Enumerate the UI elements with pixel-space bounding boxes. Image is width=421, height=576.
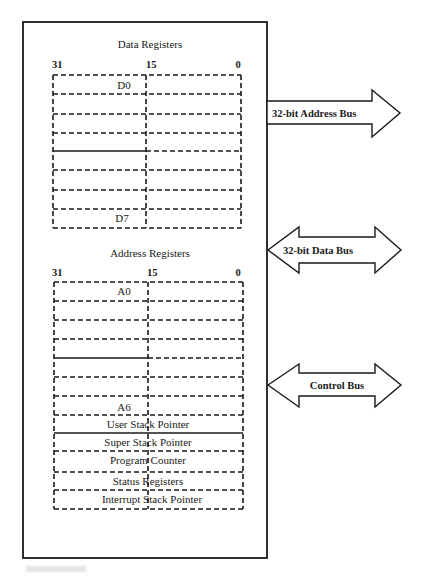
control-bus-label: Control Bus (310, 380, 364, 391)
cpu-register-diagram: Data Registers 31 15 0 D0 D7 Address Reg… (0, 0, 421, 576)
address-bit-15: 15 (147, 267, 158, 278)
status-registers-label: Status Registers (113, 475, 184, 487)
super-stack-pointer-label: Super Stack Pointer (104, 436, 192, 448)
data-registers-title: Data Registers (118, 38, 182, 50)
user-stack-pointer-label: User Stack Pointer (107, 418, 190, 430)
address-bit-0: 0 (235, 267, 240, 278)
program-counter-label: Program Counter (110, 454, 186, 466)
data-bit-15: 15 (146, 59, 157, 70)
interrupt-stack-pointer-label: Interrupt Stack Pointer (102, 493, 203, 505)
register-a0-label: A0 (117, 285, 131, 297)
data-register-file (53, 75, 241, 228)
data-bit-0: 0 (235, 59, 240, 70)
address-registers-title: Address Registers (110, 247, 190, 259)
address-bit-31: 31 (52, 267, 63, 278)
register-a6-label: A6 (117, 401, 131, 413)
address-bus-label: 32-bit Address Bus (272, 108, 356, 119)
register-d7-label: D7 (115, 212, 129, 224)
register-d0-label: D0 (117, 79, 131, 91)
figure-caption-clipped (26, 566, 86, 572)
data-bit-31: 31 (52, 59, 63, 70)
data-bus-label: 32-bit Data Bus (283, 245, 353, 256)
